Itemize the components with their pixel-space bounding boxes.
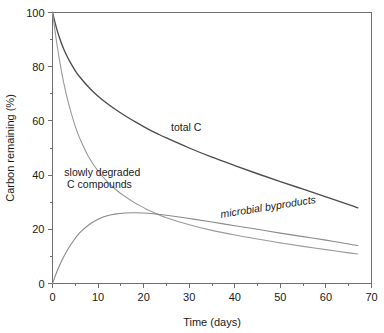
tick-labels: 020406080100010203040506070 xyxy=(26,7,377,303)
x-tick-label: 40 xyxy=(229,291,241,303)
annotation-slowly-degraded-line2: C compounds xyxy=(67,178,132,190)
y-tick-label: 0 xyxy=(38,278,44,290)
curve-annotations: total Cslowly degradedC compoundsmicrobi… xyxy=(64,121,317,220)
annotation-total-c: total C xyxy=(171,121,202,133)
y-axis-title: Carbon remaining (%) xyxy=(4,94,16,202)
curve-slowly-degraded-c-compounds xyxy=(53,13,358,254)
x-tick-label: 20 xyxy=(138,291,150,303)
x-tick-label: 10 xyxy=(92,291,104,303)
y-tick-label: 40 xyxy=(32,169,44,181)
y-tick-label: 60 xyxy=(32,115,44,127)
axes xyxy=(48,13,372,289)
x-tick-label: 30 xyxy=(183,291,195,303)
plot-frame xyxy=(53,13,372,284)
annotation-slowly-degraded-line1: slowly degraded xyxy=(64,166,140,178)
data-curves xyxy=(53,13,358,284)
y-tick-label: 20 xyxy=(32,223,44,235)
x-tick-label: 0 xyxy=(49,291,55,303)
x-axis-title: Time (days) xyxy=(183,316,241,328)
x-tick-label: 60 xyxy=(320,291,332,303)
carbon-decay-line-chart: 020406080100010203040506070 total Cslowl… xyxy=(0,0,384,333)
y-tick-label: 80 xyxy=(32,61,44,73)
x-tick-label: 70 xyxy=(365,291,377,303)
chart-figure: 020406080100010203040506070 total Cslowl… xyxy=(0,0,384,333)
y-tick-label: 100 xyxy=(26,7,44,19)
annotation-microbial-byproducts: microbial byproducts xyxy=(220,193,318,220)
x-tick-label: 50 xyxy=(274,291,286,303)
